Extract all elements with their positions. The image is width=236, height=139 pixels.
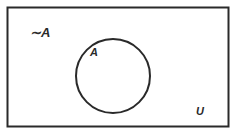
set-a-circle [76,39,150,113]
complement-label: ∼A [30,25,50,40]
set-a-label: A [89,46,98,58]
universe-label: U [196,105,205,117]
venn-diagram: ∼A A U [0,0,236,139]
